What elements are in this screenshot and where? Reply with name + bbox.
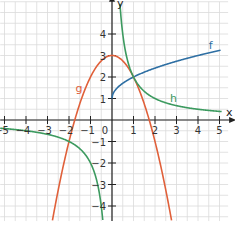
- x-tick-label: −1: [80, 125, 95, 136]
- x-tick-label: 5: [216, 125, 222, 136]
- y-tick-label: 2: [100, 72, 106, 83]
- x-tick-label: −2: [59, 125, 74, 136]
- label-h: h: [170, 92, 177, 105]
- origin-label: 0: [102, 125, 108, 136]
- function-graph: −5−4−3−2−112345−4−3−2−112340xyfgh: [0, 0, 235, 231]
- label-g: g: [75, 82, 82, 95]
- x-tick-label: −3: [37, 125, 52, 136]
- curves: [0, 4, 221, 221]
- y-axis-label: y: [117, 0, 124, 10]
- y-tick-label: −1: [91, 137, 106, 148]
- y-tick-label: −4: [91, 201, 106, 212]
- x-tick-label: 1: [130, 125, 136, 136]
- x-axis-label: x: [226, 106, 233, 119]
- grid: [0, 2, 228, 221]
- y-tick-label: −2: [91, 158, 106, 169]
- y-tick-label: 3: [100, 51, 106, 62]
- x-tick-label: 3: [173, 125, 179, 136]
- y-tick-label: 1: [100, 94, 106, 105]
- y-tick-label: 4: [100, 29, 106, 40]
- label-f: f: [209, 39, 214, 52]
- x-tick-label: −4: [16, 125, 31, 136]
- y-axis-arrow-icon: [109, 0, 115, 2]
- y-tick-label: −3: [91, 180, 106, 191]
- axes: [0, 0, 235, 221]
- x-tick-label: −5: [0, 125, 9, 136]
- x-tick-label: 2: [152, 125, 158, 136]
- curve-f: [112, 50, 221, 98]
- x-tick-label: 4: [195, 125, 201, 136]
